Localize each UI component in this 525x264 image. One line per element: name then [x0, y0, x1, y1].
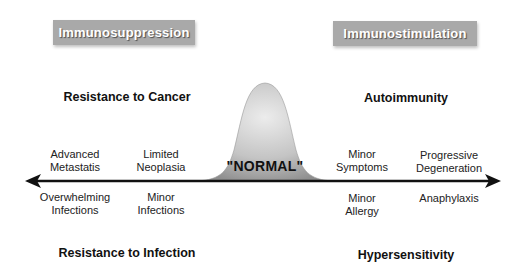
overwhelming-infections-label: Overwhelming Infections [40, 191, 110, 217]
resistance-to-cancer-label: Resistance to Cancer [63, 90, 190, 104]
hypersensitivity-label: Hypersensitivity [358, 248, 455, 262]
minor-infections-label: Minor Infections [137, 191, 184, 217]
minor-allergy-label: Minor Allergy [345, 192, 379, 218]
autoimmunity-label: Autoimmunity [364, 91, 448, 105]
anaphylaxis-label: Anaphylaxis [419, 192, 478, 205]
limited-neoplasia-label: Limited Neoplasia [137, 148, 186, 174]
resistance-to-infection-label: Resistance to Infection [59, 246, 196, 260]
immunostimulation-label: Immunostimulation [343, 26, 466, 41]
immunostimulation-header: Immunostimulation [333, 21, 477, 46]
immunosuppression-label: Immunosuppression [58, 25, 189, 40]
progressive-degeneration-label: Progressive Degeneration [416, 149, 482, 175]
minor-symptoms-label: Minor Symptoms [336, 148, 388, 174]
normal-label: "NORMAL" [226, 158, 303, 174]
advanced-metastatis-label: Advanced Metastatis [50, 148, 100, 174]
immunosuppression-header: Immunosuppression [53, 20, 195, 45]
